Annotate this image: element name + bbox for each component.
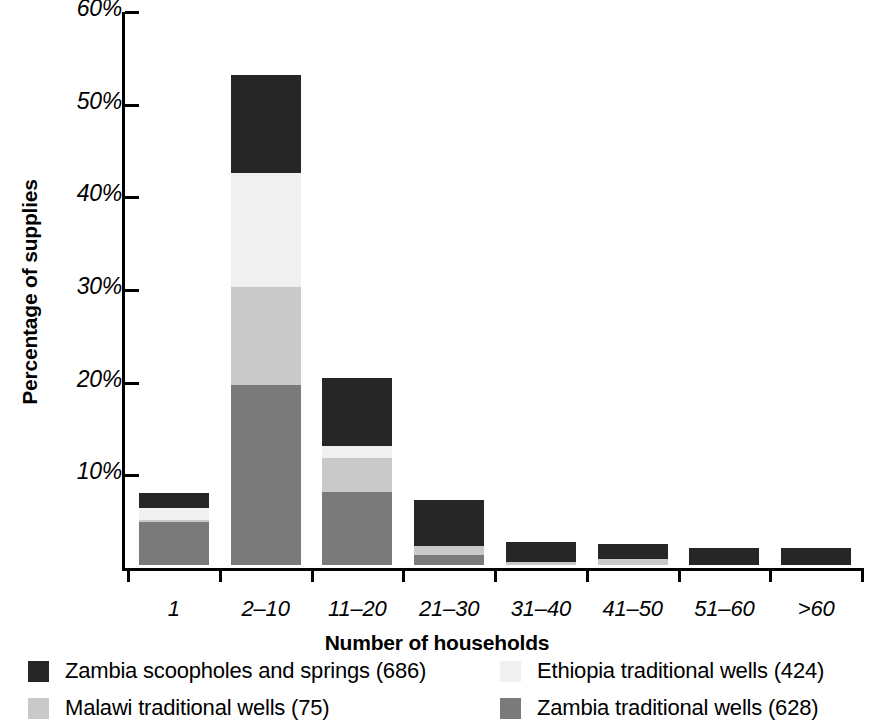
x-axis-tick [402,568,405,582]
y-axis-tick [125,11,139,14]
bar-segment [231,385,301,565]
x-axis-tick [311,568,314,582]
stacked-bar [231,75,301,565]
y-axis-tick-label: 20% [32,366,122,393]
y-axis-tick [125,104,139,107]
bar-segment [322,492,392,565]
bar-segment [506,562,576,565]
legend-item: Zambia scoopholes and springs (686) [28,658,426,684]
x-axis-spine [122,568,862,571]
legend-item: Ethiopia traditional wells (424) [500,658,824,684]
y-axis-tick-label: 40% [32,180,122,207]
bar-segment [322,378,392,447]
stacked-bar [139,493,209,565]
bar-segment [414,555,484,565]
legend-swatch-icon [28,698,49,719]
bar-segment [231,287,301,385]
x-axis-tick-label: >60 [746,596,874,622]
y-axis-tick [125,382,139,385]
x-axis-tick [861,568,864,582]
legend-swatch-icon [28,661,49,682]
bar-segment [414,500,484,545]
y-axis-tick [125,289,139,292]
x-axis-tick [586,568,589,582]
bar-segment [231,75,301,173]
bar-segment [506,542,576,562]
legend-item: Malawi traditional wells (75) [28,695,329,721]
stacked-bar [414,500,484,565]
x-axis-title: Number of households [0,631,874,655]
chart-legend: Zambia scoopholes and springs (686)Ethio… [0,658,874,728]
y-axis-tick [125,474,139,477]
bar-segment [598,544,668,559]
bar-segment [139,520,209,523]
stacked-bar [322,378,392,565]
legend-label: Zambia traditional wells (628) [537,695,818,721]
x-axis-tick [219,568,222,582]
y-axis-tick-label: 50% [32,88,122,115]
bar-segment [322,446,392,458]
y-axis-tick-label: 10% [32,458,122,485]
legend-swatch-icon [500,661,521,682]
x-axis-tick [678,568,681,582]
stacked-bar [506,542,576,565]
bar-segment [231,173,301,287]
bar-segment [139,508,209,520]
stacked-bar [598,544,668,565]
y-axis-tick [125,196,139,199]
legend-item: Zambia traditional wells (628) [500,695,818,721]
x-axis-tick [494,568,497,582]
legend-swatch-icon [500,698,521,719]
stacked-bar-chart-figure: Percentage of supplies 60%50%40%30%20%10… [0,0,874,728]
x-axis-tick [769,568,772,582]
y-axis-tick-label: 60% [32,0,122,22]
bar-segment [598,559,668,565]
plot-area: 60%50%40%30%20%10% 12–1011–2021–3031–404… [122,12,862,568]
bar-segment [689,548,759,565]
legend-label: Ethiopia traditional wells (424) [537,658,824,684]
legend-label: Malawi traditional wells (75) [65,695,329,721]
bar-segment [781,548,851,565]
stacked-bar [689,548,759,565]
y-axis-tick-labels: 60%50%40%30%20%10% [22,12,122,571]
bar-segment [139,493,209,508]
bar-segment [139,522,209,565]
bar-segment [414,546,484,555]
y-axis-tick-label: 30% [32,273,122,300]
legend-label: Zambia scoopholes and springs (686) [65,658,426,684]
bar-segment [322,458,392,491]
stacked-bar [781,548,851,565]
x-axis-tick [127,568,130,582]
